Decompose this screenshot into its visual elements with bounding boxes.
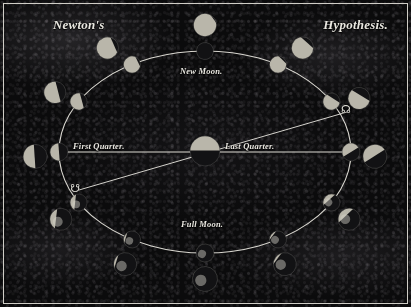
title-newtons: Newton's	[53, 17, 104, 33]
label-new-moon: New Moon.	[180, 66, 222, 76]
outer-globe-full	[188, 262, 222, 296]
outer-globe-new	[189, 9, 221, 41]
label-last-quarter: Last Quarter.	[225, 141, 274, 151]
label-full-moon: Full Moon.	[181, 219, 223, 229]
new-moon	[193, 39, 217, 63]
title-hypothesis: Hypothesis.	[323, 17, 388, 33]
label-first-quarter: First Quarter.	[73, 141, 124, 151]
descending-node-icon: ☊	[70, 182, 80, 193]
waning-gibbous-1	[121, 229, 142, 250]
first-quarter	[49, 142, 68, 161]
waxing-crescent-1-lit	[266, 53, 289, 76]
outer-globe-sw-2	[111, 250, 140, 279]
outer-globe-sw-1	[49, 207, 73, 231]
outer-globe-se-2	[269, 248, 301, 280]
outer-globe-se-1	[334, 204, 365, 235]
diagram-canvas	[0, 0, 411, 307]
outer-globe-first-qtr	[22, 144, 48, 170]
outer-globe-last-qtr	[358, 140, 391, 173]
waxing-crescent-1	[266, 53, 290, 77]
waxing-gibbous-2	[266, 228, 290, 252]
waning-crescent-2	[121, 53, 144, 76]
outer-globe-new-lit	[189, 9, 220, 40]
earth-globe	[190, 136, 220, 166]
ascending-node-icon: ☊	[341, 104, 351, 115]
engraving-plate: Newton's Hypothesis. New Moon. Full Moon…	[0, 0, 411, 307]
full-moon	[193, 241, 217, 265]
earth	[190, 136, 220, 166]
outer-globe-nw-1	[93, 33, 122, 62]
new-moon-disc	[193, 39, 217, 63]
outer-globe-nw-2	[42, 79, 69, 106]
outer-globe-ne-1	[287, 32, 318, 63]
last-quarter	[339, 140, 364, 165]
